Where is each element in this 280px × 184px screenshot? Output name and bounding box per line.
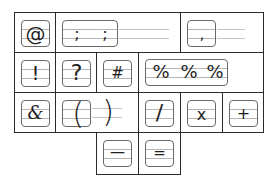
practice-card: + [229, 100, 258, 127]
symbol-equals: = [146, 146, 173, 161]
symbol-exclamation: ! [22, 63, 49, 83]
symbol-dash: — [104, 145, 131, 160]
cell-multiply: x [180, 92, 223, 133]
cell-ampersand: & [14, 92, 56, 133]
practice-card: x [187, 100, 216, 127]
practice-card: & [21, 100, 50, 127]
symbol-close-paren: ) [101, 97, 115, 127]
practice-card: ? [62, 60, 91, 87]
symbol-hash: # [104, 66, 131, 81]
cell-comma: , [180, 12, 264, 53]
practice-card: ( [62, 100, 91, 127]
symbol-plus: + [230, 106, 257, 122]
practice-card: % % % [145, 59, 228, 86]
cell-parentheses: ( ) [55, 92, 139, 133]
practice-card: — [103, 140, 132, 167]
symbol-percent: % [152, 63, 170, 81]
cell-at: @ [14, 12, 56, 53]
symbol-percent: % [206, 63, 224, 81]
symbol-open-paren: ( [71, 99, 85, 129]
symbol-multiply: x [188, 107, 215, 123]
cell-semicolon: ; ; [55, 12, 181, 53]
symbol-semicolon: ; [99, 26, 111, 42]
symbol-slash: / [146, 102, 173, 124]
cell-percent: % % % [138, 52, 264, 93]
symbol-semicolon: ; [71, 26, 83, 42]
practice-card: / [145, 100, 174, 127]
symbol-ampersand: & [22, 104, 49, 122]
cell-dash: — [96, 132, 139, 175]
cell-equals: = [138, 132, 181, 175]
cell-plus: + [222, 92, 264, 133]
practice-card: ; ; [62, 20, 118, 47]
symbol-comma: , [196, 27, 208, 41]
symbol-at: @ [22, 24, 49, 44]
practice-card: , [187, 20, 216, 47]
cell-hash: # [96, 52, 139, 93]
symbol-question: ? [63, 62, 90, 84]
symbol-percent: % [180, 63, 198, 81]
practice-card: @ [21, 20, 50, 47]
cell-question: ? [55, 52, 97, 93]
practice-card: ! [21, 60, 50, 87]
cell-exclamation: ! [14, 52, 56, 93]
practice-card: # [103, 60, 132, 87]
cell-slash: / [138, 92, 181, 133]
practice-card: = [145, 140, 174, 167]
